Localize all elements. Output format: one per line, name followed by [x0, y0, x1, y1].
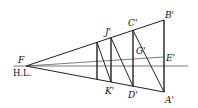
label-j: J' [103, 27, 111, 37]
label-d: D' [127, 90, 138, 100]
label-f: F [17, 55, 25, 65]
diagonal-c-a [133, 30, 164, 92]
ray-f-to-e [26, 57, 164, 66]
label-b: B' [164, 10, 174, 20]
label-e: E' [165, 53, 175, 63]
ray-f-to-b [26, 20, 164, 66]
ray-f-to-a [26, 66, 164, 92]
label-k: K' [104, 86, 114, 96]
label-c: C' [128, 18, 137, 28]
diagonal-j-d [111, 38, 133, 86]
label-horizon: H.L. [13, 68, 31, 78]
label-g: G' [136, 46, 146, 56]
perspective-diagram: F H.L. B' A' C' D' E' G' J' K' [0, 0, 198, 108]
label-a: A' [164, 95, 174, 105]
diagonal-left-k [97, 42, 111, 82]
